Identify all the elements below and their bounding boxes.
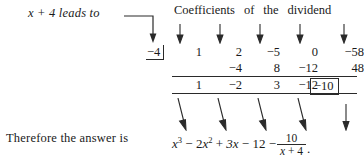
product-4: −12: [280, 61, 318, 76]
down-arrows-to-coefficients-icon: [176, 24, 357, 44]
sum-rule-upper: [172, 76, 357, 77]
fraction-den-const: 4: [297, 145, 303, 157]
quotient-coef-1: 1: [176, 78, 202, 93]
fraction-den-op: +: [288, 145, 295, 157]
answer-expression: x3 − 2x2 + 3x − 12 −10x + 4.: [172, 133, 310, 157]
answer-op2: +: [216, 136, 223, 151]
leader-arrow-icon: [123, 14, 165, 44]
products-row: −48−1248: [176, 61, 364, 76]
answer-lead-text: Therefore the answer is: [6, 131, 128, 146]
dividend-coef-5: −58: [318, 45, 364, 60]
answer-remainder-fraction: 10x + 4: [277, 133, 306, 157]
answer-term3: 3x: [226, 136, 238, 151]
dividend-coef-1: 1: [176, 45, 202, 60]
dividend-coef-3: −5: [242, 45, 280, 60]
answer-op3: −: [242, 136, 249, 151]
caption-word-1: Coefficients: [174, 3, 235, 17]
answer-term2-exp: 2: [208, 135, 212, 145]
down-arrows-to-answer-icon: [168, 98, 357, 131]
lead-in-text: x + 4 leads to: [28, 6, 100, 21]
caption-coefficients-of-the-dividend: Coefficientsofthedividend: [174, 3, 331, 18]
product-5: 48: [318, 61, 364, 76]
caption-word-2: of: [244, 3, 254, 17]
caption-word-4: dividend: [288, 3, 332, 17]
answer-term1-exp: 3: [178, 135, 182, 145]
fraction-den-var: x: [280, 145, 285, 157]
dividend-coefficients-row: 12−50−58: [176, 45, 364, 60]
divisor-cell: −4: [146, 45, 164, 60]
dividend-coef-2: 2: [202, 45, 242, 60]
fraction-numerator: 10: [277, 133, 306, 144]
answer-term4: 12: [252, 136, 265, 151]
divisor-value: −4: [146, 45, 164, 60]
quotient-coef-2: −2: [202, 78, 242, 93]
quotient-coefficients-row: 1−23−12: [176, 78, 318, 93]
sum-rule-lower: [172, 93, 357, 94]
fraction-denominator: x + 4: [277, 144, 306, 157]
quotient-coef-3: 3: [242, 78, 280, 93]
product-2: −4: [202, 61, 242, 76]
caption-word-3: the: [263, 3, 278, 17]
answer-op1: −: [185, 136, 192, 151]
answer-op4: −: [269, 136, 276, 151]
dividend-coef-4: 0: [280, 45, 318, 60]
product-3: 8: [242, 61, 280, 76]
trailing-period: .: [307, 141, 310, 156]
